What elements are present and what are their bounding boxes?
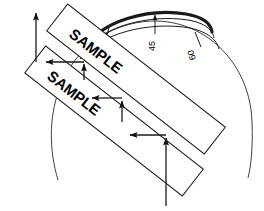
tick-label-45: 45 [147, 41, 157, 51]
technical-drawing-svg: 30 45 60 SAMPLE SAMPLE [0, 0, 264, 211]
figure-canvas: 30 45 60 SAMPLE SAMPLE [0, 0, 264, 211]
tick-60: 60 [185, 32, 201, 61]
tick-label-60: 60 [185, 49, 198, 62]
tick-45: 45 [147, 15, 157, 51]
